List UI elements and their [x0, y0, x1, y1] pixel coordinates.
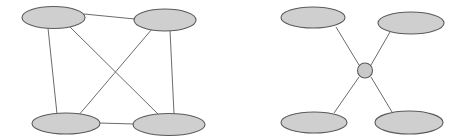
node-hub-top-left[interactable] — [281, 7, 345, 28]
node-hub-bottom-right[interactable] — [375, 111, 443, 134]
node-bottom-right[interactable] — [133, 114, 205, 136]
node-bottom-left[interactable] — [32, 113, 100, 134]
node-top-left[interactable] — [22, 7, 85, 29]
network-topology-diagram — [0, 0, 465, 140]
node-top-right[interactable] — [134, 9, 196, 31]
diagram-canvas — [0, 0, 465, 140]
node-hub-top-right[interactable] — [378, 12, 444, 34]
node-hub-bottom-left[interactable] — [281, 112, 347, 133]
node-central-hub[interactable] — [358, 63, 373, 78]
